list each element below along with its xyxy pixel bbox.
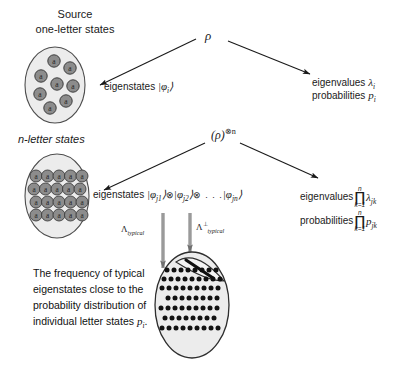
one-letter-eigenvalues-label: eigenvalues xyxy=(312,77,365,88)
nletter-eigenstates: eigenstates |φj1⟩⊗|φj2⟩⊗ . . .|φjn⟩ xyxy=(93,188,242,202)
one-letter-probabilities: probabilities pi xyxy=(312,89,376,103)
lambda-perp-symbol: ⊥ xyxy=(203,221,208,227)
one-letter-probabilities-label: probabilities xyxy=(312,90,365,101)
tensor-symbol-1: ⊗ xyxy=(166,190,174,200)
one-letter-ket-close: ⟩ xyxy=(169,80,173,92)
source-title-line2: one-letter states xyxy=(8,23,142,37)
one-letter-eigenstates-label: eigenstates xyxy=(104,81,155,92)
caption-line-1: The frequency of typical xyxy=(33,266,163,282)
rho-symbol: ρ xyxy=(205,28,211,44)
diagram-canvas: a a a a a a a a a a a a a a a a xyxy=(0,0,400,378)
rho-tensor-symbol: (ρ)⊗n xyxy=(211,128,236,143)
source-title-line1: Source xyxy=(20,8,130,22)
product-operator-probabilities: n ∏ k=1 xyxy=(354,210,365,233)
caption-period: . xyxy=(144,315,147,327)
projector-typical-label: Λtypical xyxy=(121,224,144,235)
p-sub: i xyxy=(374,95,376,104)
projector-atypical-label: Λ⊥typical xyxy=(196,222,224,233)
caption-line-2: eigenstates close to the xyxy=(33,282,163,298)
nletter-ketn-close: ⟩ xyxy=(238,188,242,200)
rho-branch-arrows xyxy=(100,39,310,85)
nletter-probabilities: probabilities n ∏ k=1 pjk xyxy=(300,210,377,233)
nletter-ket1-open: |φ xyxy=(147,188,156,200)
product-p-sub: jk xyxy=(372,221,377,230)
nletter-eigenstates-label: eigenstates xyxy=(93,189,144,200)
nletter-ket2-open: |φ xyxy=(174,188,183,200)
nletter-title-text: n-letter states xyxy=(18,133,85,145)
nletter-eigenvalues: eigenvalues n ∏ k=1 λjk xyxy=(300,186,376,209)
nletter-title: n-letter states xyxy=(18,133,85,147)
lambda-atypical-sub: typical xyxy=(208,228,225,234)
tensor-ellipsis: ⊗ . . . xyxy=(193,190,223,200)
product-lower-limit-2: k=1 xyxy=(354,226,365,233)
product-operator-eigenvalues: n ∏ k=1 xyxy=(354,186,365,209)
caption-line-4-text: individual letter states xyxy=(33,315,137,327)
rho-tensor-base: (ρ) xyxy=(211,128,225,142)
one-letter-eigenvalues: eigenvalues λi xyxy=(312,76,375,90)
caption-line-3: probability distribution of xyxy=(33,298,163,314)
rho-tensor-branch-arrows xyxy=(104,143,318,190)
caption-line-4: individual letter states pi. xyxy=(33,313,163,330)
one-letter-ket-open: |φ xyxy=(158,80,167,92)
typical-subspace-caption: The frequency of typical eigenstates clo… xyxy=(33,266,163,330)
nletter-ketn-open: |φ xyxy=(223,188,232,200)
lambda-typical-sub: typical xyxy=(128,230,145,236)
one-letter-eigenstates: eigenstates |φi⟩ xyxy=(104,80,173,94)
product-lower-limit: k=1 xyxy=(354,202,365,209)
nletter-probabilities-label: probabilities xyxy=(300,215,353,228)
nletter-eigenvalues-label: eigenvalues xyxy=(300,191,353,204)
rho-tensor-exponent: ⊗n xyxy=(225,127,236,136)
product-lambda-sub: jk xyxy=(371,197,376,206)
